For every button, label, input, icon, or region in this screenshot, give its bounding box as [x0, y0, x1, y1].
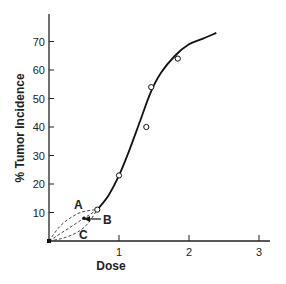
- curve-label-a: A: [74, 198, 83, 212]
- data-point: [144, 124, 149, 129]
- y-tick-label: 40: [33, 121, 45, 133]
- dashed-curve-c: [49, 210, 97, 241]
- y-tick-label: 10: [33, 207, 45, 219]
- data-points: [82, 56, 180, 220]
- y-axis-title: % Tumor Incidence: [13, 73, 27, 182]
- x-tick-label: 2: [186, 246, 192, 258]
- x-tick-label: 3: [256, 246, 262, 258]
- x-axis-title: Dose: [96, 259, 126, 273]
- data-point: [175, 56, 180, 61]
- y-tick-label: 70: [33, 36, 45, 48]
- y-tick-label: 50: [33, 93, 45, 105]
- y-tick-label: 30: [33, 150, 45, 162]
- fitted-curve: [97, 33, 216, 210]
- curve-label-c: C: [79, 228, 88, 242]
- y-axis: 10203040506070: [33, 14, 54, 241]
- dashed-curve-b: [49, 210, 97, 241]
- dose-response-chart: 10203040506070 123 % Tumor Incidence Dos…: [0, 0, 286, 284]
- y-tick-label: 20: [33, 178, 45, 190]
- dashed-curve-a: [49, 210, 97, 241]
- x-tick-label: 1: [116, 246, 122, 258]
- curve-label-b: B: [103, 213, 112, 227]
- data-point: [149, 85, 154, 90]
- origin-marker: [47, 239, 51, 243]
- low-dose-extrapolation-curves: [49, 210, 97, 241]
- y-tick-label: 60: [33, 64, 45, 76]
- data-point: [95, 207, 100, 212]
- data-point: [116, 173, 121, 178]
